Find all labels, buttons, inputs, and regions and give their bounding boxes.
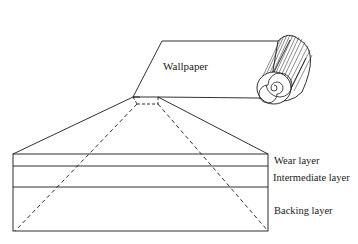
backing-layer-label: Backing layer: [274, 205, 333, 216]
wallpaper-layers-diagram: Wallpaper Wear layer Intermediate layer …: [0, 0, 358, 244]
intermediate-layer-label: Intermediate layer: [273, 172, 350, 183]
wear-layer-label: Wear layer: [274, 155, 320, 166]
wallpaper-label: Wallpaper: [163, 60, 208, 72]
projection-lines: [13, 97, 268, 231]
wallpaper-roll-icon: [257, 35, 312, 104]
layers-cross-section: [13, 154, 268, 231]
sample-region: [133, 97, 158, 104]
